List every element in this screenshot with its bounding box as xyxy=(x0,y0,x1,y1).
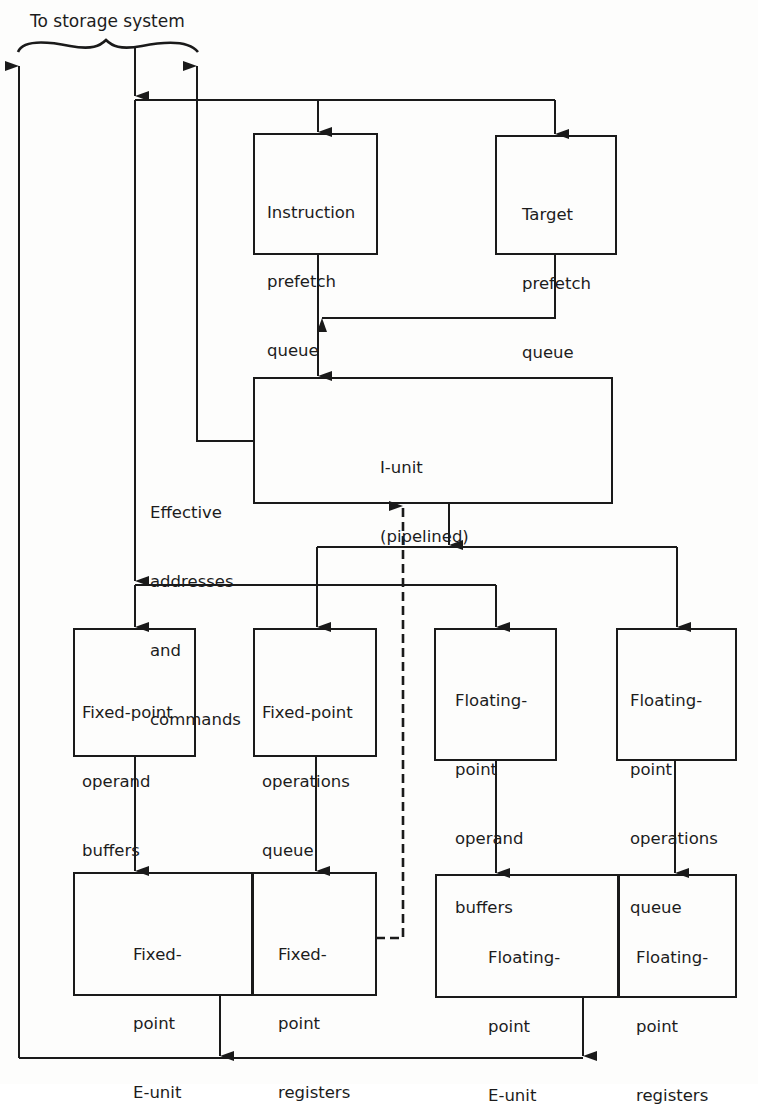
fixed-point-registers-label: Fixed- point registers xyxy=(278,897,350,1108)
storage-system-label: To storage system xyxy=(30,10,185,33)
target-prefetch-queue-label: Target prefetch queue xyxy=(522,157,591,410)
fixed-point-operand-buffers-label: Fixed-point operand buffers xyxy=(82,655,173,908)
floating-point-divider xyxy=(617,874,620,998)
floating-point-registers-label: Floating- point registers xyxy=(636,900,708,1108)
storage-brace xyxy=(18,40,198,52)
i-unit-label: I-unit (pipelined) xyxy=(380,410,469,594)
fixed-point-divider xyxy=(251,872,254,996)
fixed-point-operations-queue-label: Fixed-point operations queue xyxy=(262,655,353,908)
instruction-prefetch-queue-label: Instruction prefetch queue xyxy=(267,155,355,408)
floating-point-e-unit-label: Floating- point E-unit xyxy=(488,900,560,1108)
fixed-point-e-unit-label: Fixed- point E-unit xyxy=(133,897,182,1108)
iunit-to-storage-line xyxy=(197,66,254,441)
